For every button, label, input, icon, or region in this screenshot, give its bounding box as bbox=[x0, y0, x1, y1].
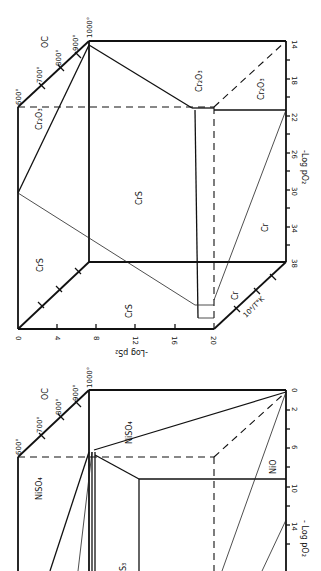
svg-text:14: 14 bbox=[290, 40, 298, 49]
svg-text:34: 34 bbox=[290, 224, 298, 233]
region-label: CrS bbox=[125, 304, 134, 318]
region-label: NiSO₄ bbox=[35, 477, 44, 500]
svg-text:0: 0 bbox=[290, 388, 298, 392]
svg-text:8: 8 bbox=[92, 336, 100, 340]
region-label: Cr bbox=[231, 290, 240, 300]
region-label: Cr₂O₃ bbox=[257, 78, 266, 100]
top-diagram bbox=[18, 41, 290, 329]
svg-text:10: 10 bbox=[290, 484, 298, 493]
ps2-axis-title: -Log pS₂ bbox=[115, 348, 148, 357]
temp-label-600: 600° bbox=[15, 88, 23, 105]
svg-text:12: 12 bbox=[131, 336, 139, 345]
region-label: NiO bbox=[269, 459, 278, 474]
region-label: CrS bbox=[135, 191, 144, 205]
svg-text:18: 18 bbox=[290, 76, 298, 85]
temp-axis-title-bottom: OC bbox=[41, 388, 50, 400]
svg-text:38: 38 bbox=[290, 259, 298, 268]
svg-text:900°: 900° bbox=[72, 384, 80, 401]
diagram-canvas: 600° 700° 800° 900° 1000° OC Cr₂O₃ Cr₂O₃… bbox=[0, 0, 321, 571]
svg-text:1000°: 1000° bbox=[86, 367, 94, 388]
po2-axis-title-bottom: - Log pO₂ bbox=[300, 520, 309, 557]
region-label: CrS bbox=[36, 258, 45, 272]
temp-label-700: 700° bbox=[36, 66, 44, 83]
svg-text:700°: 700° bbox=[36, 416, 44, 433]
temp-label-900: 900° bbox=[72, 34, 80, 51]
temp-axis-title: OC bbox=[41, 36, 50, 48]
svg-text:2: 2 bbox=[290, 407, 298, 411]
region-label: Cr bbox=[261, 222, 270, 232]
svg-text:0: 0 bbox=[14, 336, 22, 340]
svg-text:800°: 800° bbox=[55, 398, 63, 415]
svg-text:600°: 600° bbox=[15, 438, 23, 455]
boundary bbox=[89, 45, 192, 108]
region-label: S₃ bbox=[119, 563, 128, 571]
svg-text:22: 22 bbox=[290, 113, 298, 122]
svg-text:20: 20 bbox=[209, 336, 217, 345]
recip-temp-label: 10⁴/T°K bbox=[242, 295, 267, 320]
region-label: Cr₂O₃ bbox=[195, 70, 204, 92]
svg-text:4: 4 bbox=[53, 336, 61, 341]
temp-label-1000: 1000° bbox=[86, 17, 94, 38]
region-label: Cr₂O₃ bbox=[35, 108, 44, 130]
po2-axis-title: -Log pO₂ bbox=[300, 150, 309, 184]
svg-text:26: 26 bbox=[290, 150, 298, 159]
svg-text:6: 6 bbox=[290, 445, 298, 450]
svg-text:30: 30 bbox=[290, 187, 298, 196]
svg-text:16: 16 bbox=[170, 336, 178, 345]
svg-text:14: 14 bbox=[290, 522, 298, 531]
temp-label-800: 800° bbox=[55, 49, 63, 66]
bottom-diagram bbox=[18, 390, 290, 571]
region-label: NiSO₄ bbox=[125, 421, 134, 444]
